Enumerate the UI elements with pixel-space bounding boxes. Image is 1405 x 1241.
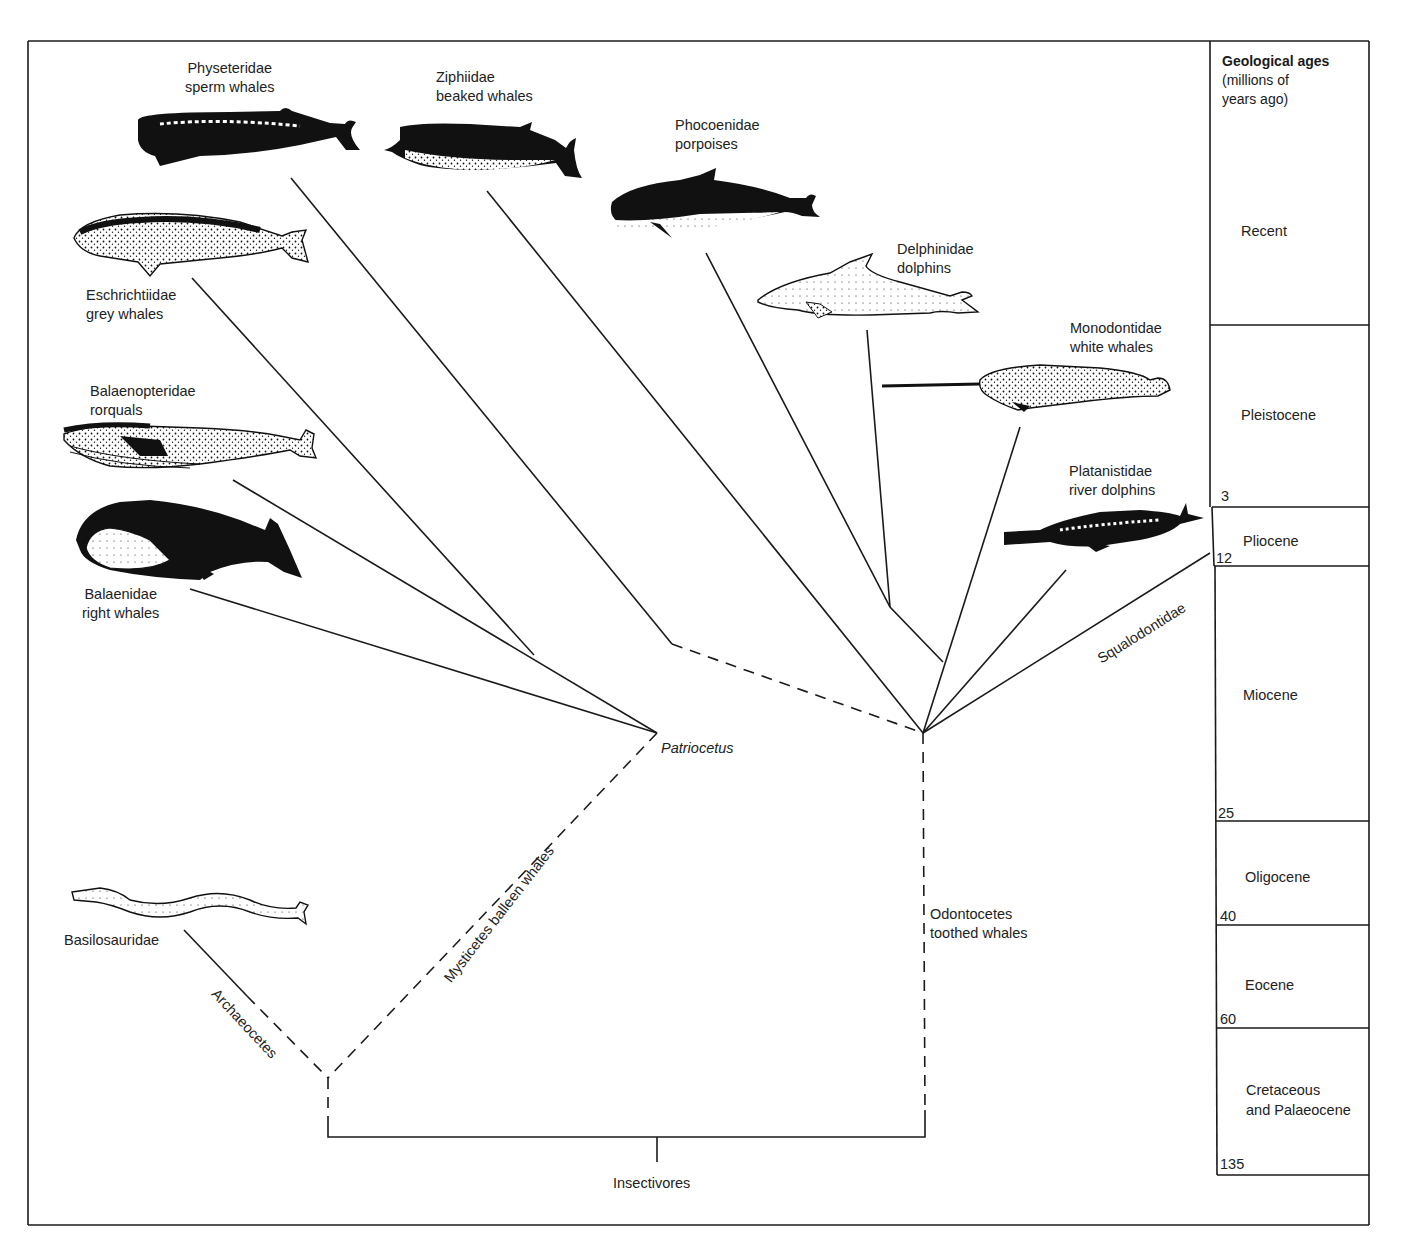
tree-branches-solid [184,178,1210,1162]
mya-25: 25 [1218,805,1234,821]
family-name: Platanistidae [1069,462,1155,481]
period-oligocene: Oligocene [1245,867,1310,887]
branch-balaenidae [190,589,657,733]
family-common-name: dolphins [897,259,974,278]
branch-odontocetes-dashed [923,733,925,1110]
basilosaurus-illustration [72,888,308,924]
right-whale-illustration [76,500,302,580]
family-name: Balaenidae [82,585,159,604]
period-cretaceous-palaeocene: Cretaceous and Palaeocene [1246,1080,1351,1120]
label-eschrichtiidae: Eschrichtiidae grey whales [86,286,176,324]
label-patriocetus: Patriocetus [661,739,734,758]
branch-platanistidae [923,570,1066,733]
label-delphinidae: Delphinidae dolphins [897,240,974,278]
narwhal-illustration [882,365,1170,412]
family-name: Delphinidae [897,240,974,259]
mya-40: 40 [1220,908,1236,924]
period-miocene: Miocene [1243,685,1298,705]
period-pleistocene: Pleistocene [1241,405,1316,425]
label-monodontidae: Monodontidae white whales [1070,319,1162,357]
mya-135: 135 [1220,1156,1244,1172]
geological-column [1210,41,1369,1175]
period-eocene: Eocene [1245,975,1294,995]
family-common-name: beaked whales [436,87,533,106]
branch-delphinidae [867,330,890,607]
geology-subtitle-2: years ago) [1222,90,1329,109]
family-name: Physeteridae [185,59,274,78]
family-name: Eschrichtiidae [86,286,176,305]
branch-physeteridae-dashed [672,644,923,733]
mya-3: 3 [1221,488,1229,504]
phylogeny-diagram [0,0,1405,1241]
label-basilosauridae: Basilosauridae [64,931,159,950]
family-common-name: white whales [1070,338,1162,357]
branch-eschrichtiidae [192,278,534,655]
label-platanistidae: Platanistidae river dolphins [1069,462,1155,500]
family-common-name: grey whales [86,305,176,324]
family-name: Phocoenidae [675,116,760,135]
label-physeteridae: Physeteridae sperm whales [185,59,274,97]
period-name-line2: and Palaeocene [1246,1100,1351,1120]
period-name: Cretaceous [1246,1080,1351,1100]
label-odontocetes: Odontocetes toothed whales [930,905,1028,943]
sperm-whale-illustration [138,108,360,166]
label-balaenopteridae: Balaenopteridae rorquals [90,382,196,420]
porpoise-illustration [611,168,820,238]
geology-subtitle-1: (millions of [1222,71,1329,90]
label-phocoenidae: Phocoenidae porpoises [675,116,760,154]
base-bar [328,1110,925,1137]
geology-header: Geological ages (millions of years ago) [1222,52,1329,109]
branch-basilosauridae [184,930,247,996]
river-dolphin-illustration [1004,503,1204,552]
label-ziphiidae: Ziphiidae beaked whales [436,68,533,106]
group-common-name: toothed whales [930,924,1028,943]
rorqual-illustration [64,425,316,468]
family-common-name: porpoises [675,135,760,154]
geology-title: Geological ages [1222,52,1329,71]
branch-mysticetes-dashed [328,733,657,1078]
label-balaenidae: Balaenidae right whales [82,585,159,623]
family-common-name: right whales [82,604,159,623]
mya-12: 12 [1216,550,1232,566]
family-common-name: sperm whales [185,78,274,97]
branch-monodontidae [923,427,1020,733]
branch-balaenopteridae [233,480,657,733]
tree-branches-dashed [247,644,925,1116]
period-recent: Recent [1241,221,1287,241]
mya-60: 60 [1220,1011,1236,1027]
family-name: Ziphiidae [436,68,533,87]
family-name: Balaenopteridae [90,382,196,401]
grey-whale-illustration [74,214,308,276]
label-insectivores: Insectivores [613,1174,690,1193]
family-name: Monodontidae [1070,319,1162,338]
family-name: Basilosauridae [64,931,159,950]
family-common-name: rorquals [90,401,196,420]
period-pliocene: Pliocene [1243,531,1299,551]
family-common-name: river dolphins [1069,481,1155,500]
group-name: Odontocetes [930,905,1028,924]
branch-squalodontidae [923,553,1210,733]
branch-physeteridae [291,178,672,644]
beaked-whale-illustration [384,122,582,178]
